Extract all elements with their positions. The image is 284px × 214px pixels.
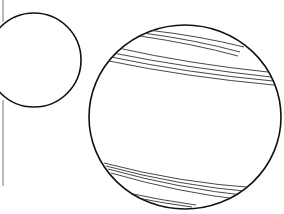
stripe-line — [111, 173, 245, 200]
stripe-line — [148, 30, 244, 47]
stripe-line — [140, 36, 238, 56]
stripe-line — [111, 57, 273, 81]
sphere-stripe-bands — [104, 30, 274, 207]
stripe-line — [118, 48, 268, 72]
stripe-line — [104, 163, 258, 188]
stripe-line — [128, 193, 196, 205]
stripe-line — [132, 197, 192, 207]
figure-canvas — [0, 0, 284, 214]
small-sphere-outline — [0, 13, 81, 107]
top-cap-band — [140, 30, 244, 56]
lower-band — [104, 163, 258, 200]
upper-band — [109, 48, 274, 85]
stripe-line — [113, 53, 271, 77]
spheres-drawing — [0, 0, 284, 214]
stripe-line — [109, 61, 274, 85]
bottom-cap-band — [128, 193, 196, 207]
large-sphere-outline — [89, 25, 281, 209]
